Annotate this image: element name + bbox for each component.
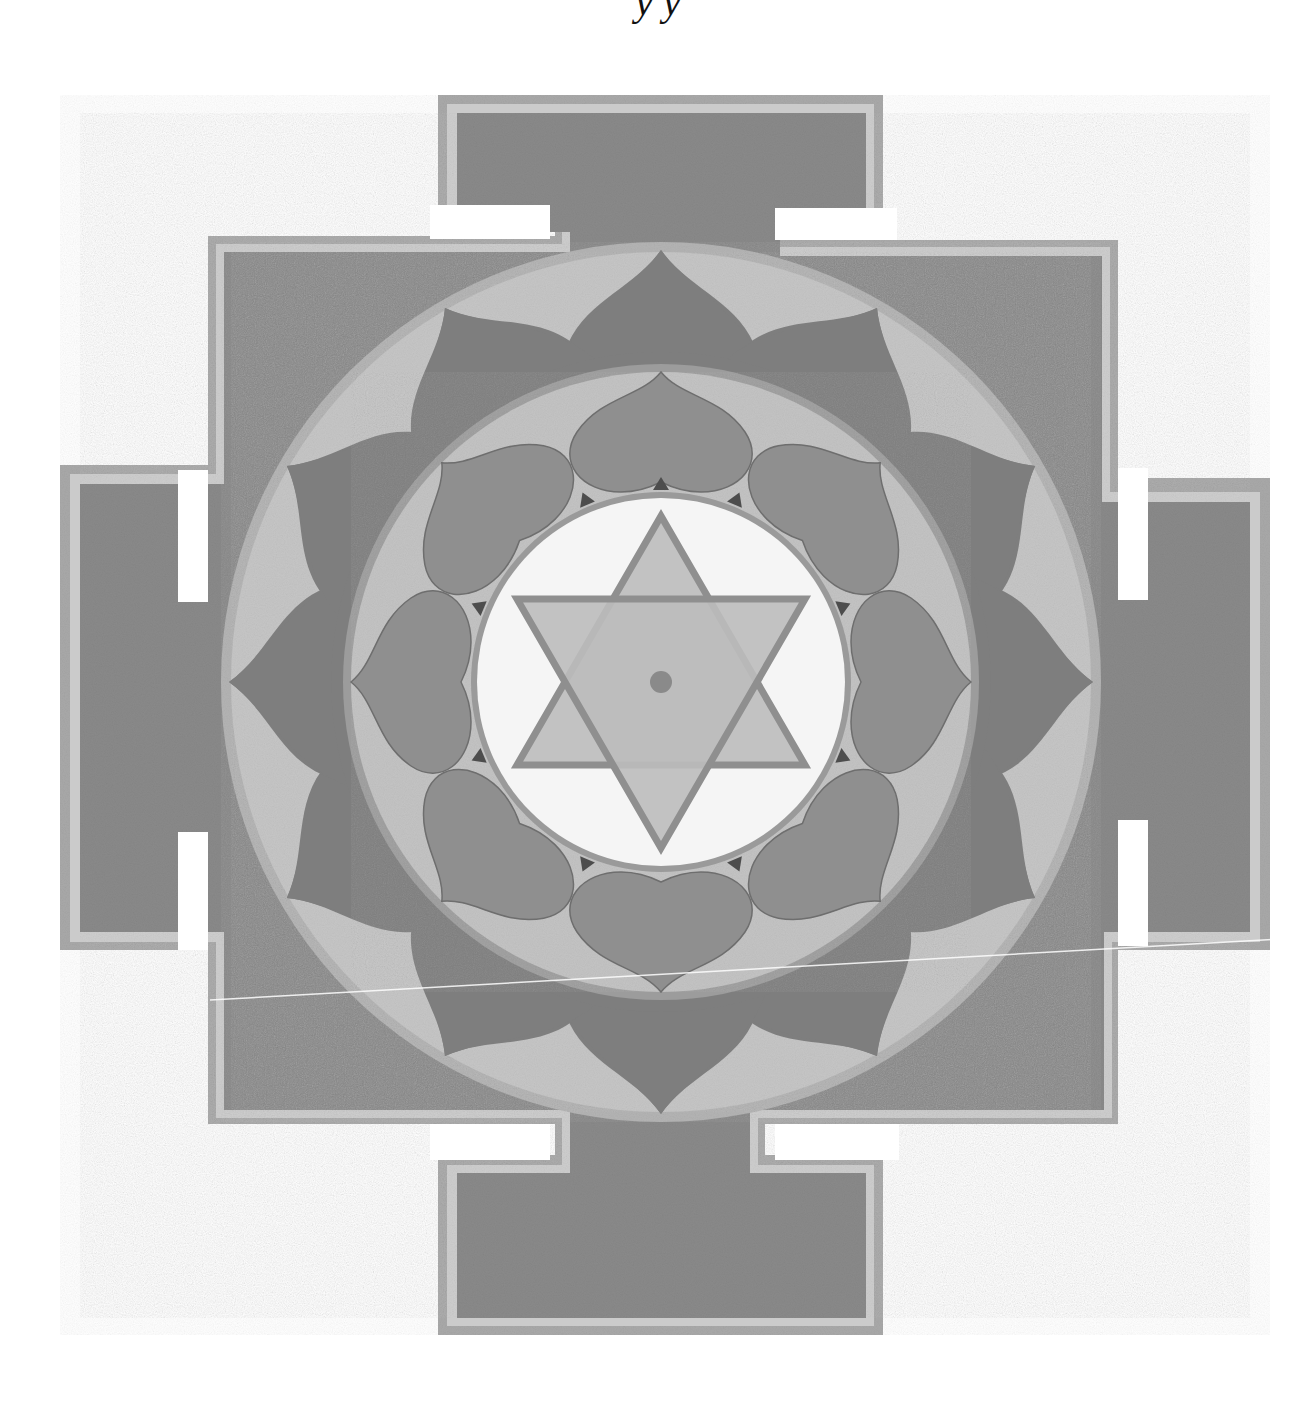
inner-circle-group [471, 492, 851, 872]
bindu-dot [650, 671, 672, 693]
yantra-illustration [0, 0, 1316, 1406]
